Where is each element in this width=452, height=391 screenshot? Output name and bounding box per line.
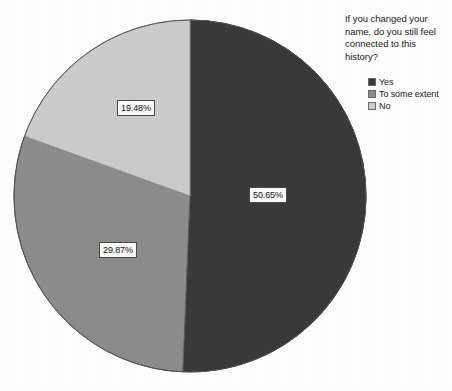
pie-svg (0, 0, 380, 391)
pie-chart-figure: 50.65% 29.87% 19.48% If you changed your… (0, 0, 452, 391)
legend-item-to-some-extent[interactable]: To some extent (368, 88, 452, 99)
chart-legend: Yes To some extent No (368, 76, 452, 112)
legend-swatch-icon (368, 102, 376, 110)
legend-item-no[interactable]: No (368, 100, 452, 111)
legend-item-label: No (379, 101, 390, 111)
chart-title-line: connected to this (345, 38, 451, 51)
chart-title: If you changed your name, do you still f… (345, 13, 451, 63)
data-label-no: 19.48% (117, 100, 155, 116)
legend-item-yes[interactable]: Yes (368, 76, 452, 87)
legend-swatch-icon (368, 90, 376, 98)
chart-title-line: If you changed your (345, 13, 451, 26)
legend-item-label: Yes (379, 77, 393, 87)
chart-title-line: history? (345, 51, 451, 64)
data-label-yes: 50.65% (249, 187, 287, 203)
pie-plot-area: 50.65% 29.87% 19.48% (0, 0, 340, 391)
data-label-to-some-extent: 29.87% (99, 242, 137, 258)
legend-item-label: To some extent (379, 89, 439, 99)
legend-swatch-icon (368, 78, 376, 86)
chart-title-line: name, do you still feel (345, 26, 451, 39)
chart-side-panel: If you changed your name, do you still f… (344, 0, 452, 391)
pie-slices (14, 20, 366, 372)
